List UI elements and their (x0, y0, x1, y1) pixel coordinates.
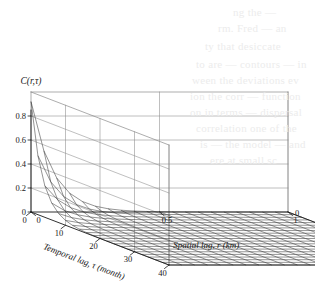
tau-tick-label: 10 (55, 228, 64, 238)
r-tick-label: 0.5 (162, 215, 173, 225)
tau-tick-label: 0 (22, 215, 26, 225)
tau-tick-label: 40 (158, 268, 167, 278)
ghost-text-line: to are — contours — in (196, 58, 307, 70)
r-axis-title: Spatial lag, r (km) (173, 240, 239, 250)
mesh-line-constant-tau (79, 229, 315, 230)
z-tick-label: 0.2 (15, 183, 26, 193)
r-tick-label: 0 (36, 215, 40, 225)
ghost-text-line: ion the corr — function (190, 90, 301, 102)
tau-tick-mark (27, 212, 32, 216)
ghost-text-line: correlation one of the (196, 122, 297, 134)
mesh-line-constant-r (121, 210, 259, 265)
ghost-text-line: ere at small sc (210, 154, 277, 166)
ghost-text-line: on in terms — dispersal (190, 106, 302, 118)
figure-page: 0.80.60.40.2001020304000.510Temporal lag… (0, 0, 315, 302)
ghost-text-line: ty that desiccate (205, 40, 281, 52)
z-tick-label: 0.6 (15, 135, 26, 145)
tau-tick-label: 30 (124, 254, 133, 264)
ghost-text-line: ween the deviations ev (192, 74, 299, 86)
r-axis-origin-label: 0 (295, 208, 299, 218)
plot-title: C(r,τ) (20, 76, 41, 87)
tau-axis-title: Temporal lag, τ (month) (42, 241, 126, 281)
tau-tick-label: 20 (89, 241, 98, 251)
z-tick-label: 0.4 (15, 159, 26, 169)
ghost-text-line: is — the model — and (200, 138, 306, 150)
ghost-text-line: ng the — (233, 6, 276, 18)
z-tick-label: 0.8 (15, 111, 26, 121)
ghost-text-line: rm. Fred — an (218, 22, 287, 34)
